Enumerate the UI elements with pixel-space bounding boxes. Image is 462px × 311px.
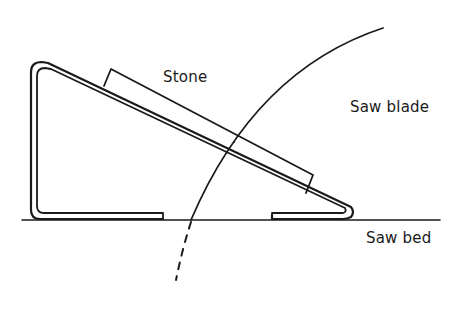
diagram-drawing — [0, 0, 462, 311]
blade-stone-contact-dot — [233, 141, 235, 143]
saw-blade-label: Saw blade — [350, 98, 429, 116]
holder-frame-inner — [37, 68, 346, 219]
stone-label: Stone — [163, 68, 207, 86]
saw-bed-label: Saw bed — [366, 229, 431, 247]
saw-blade-arc — [191, 28, 383, 220]
diagram-canvas: Stone Saw blade Saw bed — [0, 0, 462, 311]
saw-blade-arc-hidden — [176, 222, 191, 280]
blade-stone-contact-dot — [237, 135, 239, 137]
